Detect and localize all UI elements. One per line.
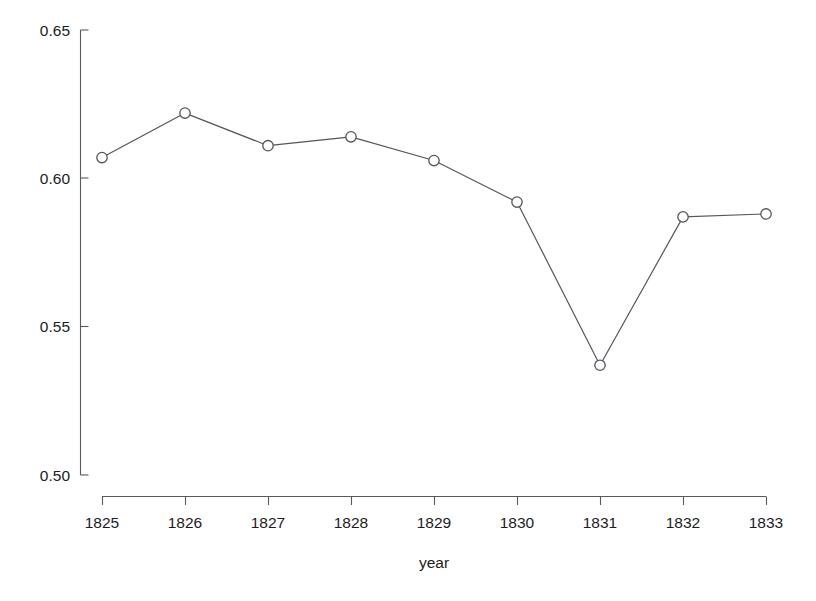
data-point [180, 108, 190, 118]
y-tick-label: 0.55 [40, 318, 70, 335]
y-tick-label: 0.65 [40, 22, 70, 39]
x-tick-label: 1828 [334, 514, 368, 531]
x-tick-label: 1827 [251, 514, 285, 531]
x-tick-label: 1826 [168, 514, 202, 531]
line-chart: 0.500.550.600.65 18251826182718281829183… [0, 0, 816, 601]
data-point [263, 141, 273, 151]
data-point [97, 152, 107, 162]
x-axis-ticks [103, 497, 767, 506]
data-point [512, 197, 522, 207]
plot-area: 0.500.550.600.65 18251826182718281829183… [0, 0, 816, 601]
data-point [346, 132, 356, 142]
x-tick-label: 1829 [417, 514, 451, 531]
x-tick-label: 1832 [666, 514, 700, 531]
data-point [595, 360, 605, 370]
x-tick-label: 1831 [583, 514, 617, 531]
x-tick-labels: 182518261827182818291830183118321833 [85, 514, 783, 531]
y-tick-label: 0.50 [40, 467, 71, 484]
x-tick-label: 1830 [500, 514, 535, 531]
series-line [102, 113, 766, 365]
y-tick-label: 0.60 [40, 170, 71, 187]
data-point [429, 155, 439, 165]
y-axis-ticks [81, 30, 89, 475]
data-point [678, 212, 688, 222]
x-tick-label: 1825 [85, 514, 119, 531]
y-tick-labels: 0.500.550.600.65 [40, 22, 71, 484]
data-point [761, 209, 771, 219]
x-tick-label: 1833 [749, 514, 783, 531]
x-axis-title: year [419, 554, 449, 571]
